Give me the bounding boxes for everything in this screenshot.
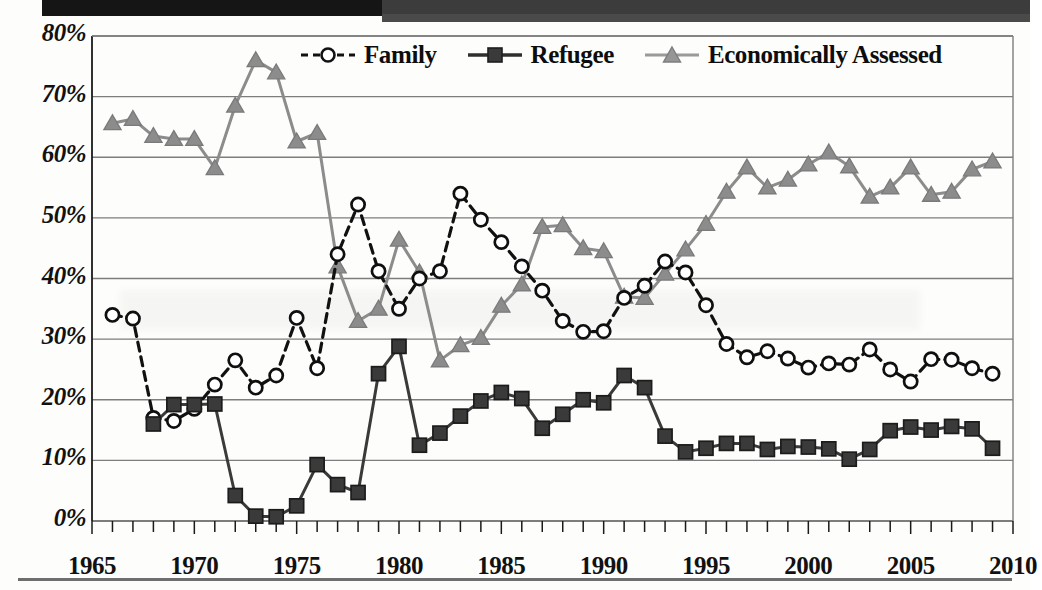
y-axis-tick-label: 60% xyxy=(12,140,86,168)
y-axis-tick-label: 80% xyxy=(12,19,86,47)
legend-label-family: Family xyxy=(364,41,437,69)
x-axis-tick-label: 2005 xyxy=(866,552,956,580)
legend-label-refugee: Refugee xyxy=(531,41,614,69)
chart-legend: Family Refugee Economically Assessed xyxy=(300,38,942,72)
x-axis-tick-label: 1970 xyxy=(149,552,239,580)
x-axis-tick-label: 1995 xyxy=(661,552,751,580)
gray-triangle-marker-icon xyxy=(644,45,700,65)
solid-square-marker-icon xyxy=(467,45,523,65)
series-refugee xyxy=(146,339,999,523)
x-axis-tick-label: 1985 xyxy=(456,552,546,580)
x-axis-labels: 1965197019751980198519901995200020052010 xyxy=(0,540,1030,580)
x-axis-ticks-group xyxy=(92,521,1013,534)
series-family xyxy=(106,187,999,428)
y-axis-tick-label: 10% xyxy=(12,443,86,471)
x-axis-tick-label: 1965 xyxy=(47,552,137,580)
y-axis-tick-label: 30% xyxy=(12,322,86,350)
y-axis-tick-label: 0% xyxy=(12,504,86,532)
x-axis-tick-label: 1980 xyxy=(354,552,444,580)
y-axis-tick-label: 40% xyxy=(12,262,86,290)
x-axis-tick-label: 1975 xyxy=(252,552,342,580)
y-axis-tick-label: 20% xyxy=(12,383,86,411)
series-economically-assessed xyxy=(104,52,1001,367)
y-axis-labels: 80%70%60%50%40%30%20%10%0% xyxy=(0,0,86,590)
x-axis-tick-label: 2010 xyxy=(968,552,1042,580)
dashed-open-circle-marker-icon xyxy=(300,45,356,65)
y-axis-tick-label: 50% xyxy=(12,201,86,229)
legend-item-family[interactable]: Family xyxy=(300,41,437,69)
x-axis-tick-label: 2000 xyxy=(763,552,853,580)
y-axis-tick-label: 70% xyxy=(12,80,86,108)
legend-item-refugee[interactable]: Refugee xyxy=(467,41,614,69)
legend-item-economically-assessed[interactable]: Economically Assessed xyxy=(644,41,942,69)
legend-label-economically-assessed: Economically Assessed xyxy=(708,41,942,69)
x-axis-tick-label: 1990 xyxy=(559,552,649,580)
